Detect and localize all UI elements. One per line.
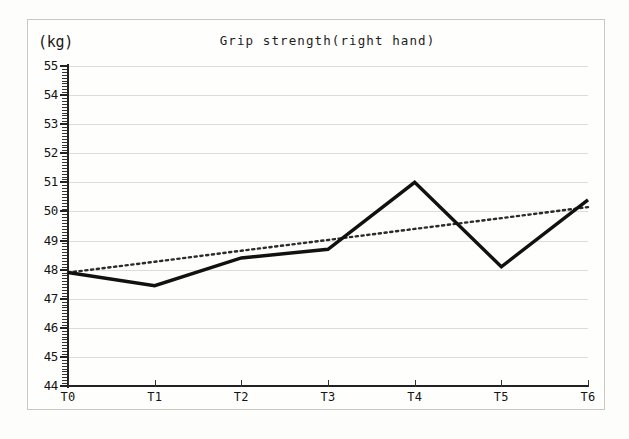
x-axis-tick [415, 380, 416, 387]
y-axis-tick-minor [62, 174, 67, 175]
y-axis-tick-minor [62, 229, 67, 230]
x-axis-tick [155, 380, 156, 387]
plot-area [68, 66, 588, 386]
y-axis-tick-minor [62, 305, 67, 306]
y-axis-tick-minor [62, 249, 67, 250]
y-axis-tick-minor [62, 81, 67, 82]
gridline [68, 357, 588, 358]
y-axis-tick-minor [62, 354, 67, 355]
y-axis-tick-minor [62, 194, 67, 195]
y-axis-tick-minor [62, 310, 67, 311]
y-axis-tick-label: 53 [28, 116, 58, 131]
x-axis-tick-label: T2 [221, 390, 261, 404]
y-axis-tick-minor [62, 235, 67, 236]
y-axis-tick-major [60, 210, 68, 212]
y-axis-tick-minor [62, 360, 67, 361]
y-axis-tick-minor [62, 380, 67, 381]
y-axis-tick-major [60, 269, 68, 271]
y-axis-tick-minor [62, 209, 67, 210]
chart-title: Grip strength(right hand) [0, 33, 629, 48]
y-axis-tick-minor [62, 206, 67, 207]
y-axis-tick-label: 49 [28, 233, 58, 248]
y-axis-tick-minor [62, 113, 67, 114]
chart-container: (kg) Grip strength(right hand) 555453525… [0, 0, 629, 439]
x-axis-tick-label: T3 [308, 390, 348, 404]
x-axis-tick [501, 380, 502, 387]
gridline [68, 241, 588, 242]
y-axis-tick-minor [62, 275, 67, 276]
y-axis-tick-minor [62, 83, 67, 84]
y-axis-tick-minor [62, 177, 67, 178]
y-axis-tick-minor [62, 130, 67, 131]
y-axis-tick-minor [62, 133, 67, 134]
y-axis-tick-minor [62, 156, 67, 157]
x-axis-tick-label: T0 [48, 390, 88, 404]
y-axis-tick-minor [62, 168, 67, 169]
y-axis-tick-label: 54 [28, 87, 58, 102]
y-axis-tick-minor [62, 110, 67, 111]
y-axis-tick-minor [62, 185, 67, 186]
y-axis-tick-minor [62, 115, 67, 116]
y-axis-tick-minor [62, 243, 67, 244]
y-axis-tick-minor [62, 86, 67, 87]
y-axis-tick-label: 52 [28, 145, 58, 160]
y-axis-tick-minor [62, 203, 67, 204]
gridline [68, 270, 588, 271]
y-axis-tick-label: 55 [28, 58, 58, 73]
x-axis-tick-label: T1 [135, 390, 175, 404]
y-axis-tick-minor [62, 188, 67, 189]
y-axis-tick-minor [62, 217, 67, 218]
y-axis-tick-minor [62, 278, 67, 279]
y-axis-tick-label: 46 [28, 320, 58, 335]
y-axis-tick-minor [62, 220, 67, 221]
y-axis-tick-minor [62, 171, 67, 172]
x-axis-tick-label: T6 [568, 390, 608, 404]
y-axis-tick-minor [62, 339, 67, 340]
y-axis-tick-minor [62, 98, 67, 99]
y-axis-tick-minor [62, 89, 67, 90]
y-axis-tick-major [60, 65, 68, 67]
y-axis-tick-minor [62, 293, 67, 294]
y-axis-tick-minor [62, 136, 67, 137]
y-axis-tick-minor [62, 296, 67, 297]
y-axis-tick-minor [62, 290, 67, 291]
y-axis-tick-minor [62, 366, 67, 367]
y-axis-tick-major [60, 94, 68, 96]
y-axis-tick-minor [62, 246, 67, 247]
y-axis-tick-minor [62, 345, 67, 346]
y-axis-tick-minor [62, 313, 67, 314]
y-axis-tick-minor [62, 267, 67, 268]
y-axis-tick-minor [62, 232, 67, 233]
y-axis-tick-minor [62, 287, 67, 288]
y-axis-tick-minor [62, 255, 67, 256]
y-axis-tick-label: 51 [28, 174, 58, 189]
y-axis-tick-major [60, 123, 68, 125]
x-axis-tick [68, 380, 69, 387]
y-axis-tick-minor [62, 377, 67, 378]
y-axis-tick-minor [62, 101, 67, 102]
y-axis-tick-minor [62, 179, 67, 180]
y-axis-line [67, 64, 69, 388]
gridline [68, 153, 588, 154]
y-axis-tick-major [60, 152, 68, 154]
gridline [68, 66, 588, 67]
y-axis-tick-minor [62, 351, 67, 352]
y-axis-tick-minor [62, 104, 67, 105]
y-axis-tick-minor [62, 197, 67, 198]
y-axis-tick-minor [62, 191, 67, 192]
y-axis-tick-minor [62, 302, 67, 303]
y-axis-tick-minor [62, 162, 67, 163]
y-axis-tick-minor [62, 121, 67, 122]
y-axis-tick-minor [62, 319, 67, 320]
y-axis-tick-major [60, 356, 68, 358]
y-axis-tick-label: 45 [28, 349, 58, 364]
y-axis-tick-minor [62, 307, 67, 308]
y-axis-tick-minor [62, 75, 67, 76]
y-axis-tick-major [60, 181, 68, 183]
y-axis-tick-label: 48 [28, 262, 58, 277]
y-axis-tick-minor [62, 150, 67, 151]
y-axis-tick-minor [62, 334, 67, 335]
y-axis-tick-minor [62, 200, 67, 201]
y-axis-tick-major [60, 327, 68, 329]
y-axis-tick-major [60, 298, 68, 300]
